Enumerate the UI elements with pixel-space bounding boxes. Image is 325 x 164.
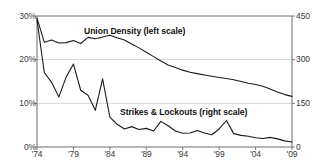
series-label-union-density: Union Density (left scale) xyxy=(84,26,185,36)
axis-ticks-group xyxy=(34,16,295,150)
series-paths-group xyxy=(37,18,292,142)
chart-container: Union Density (left scale) Strikes & Loc… xyxy=(0,0,325,164)
y-right-tick-label: 450 xyxy=(296,11,310,21)
gridlines-group xyxy=(37,60,292,104)
x-tick-label: '79 xyxy=(60,149,86,159)
x-tick-label: '89 xyxy=(133,149,159,159)
x-tick-label: '74 xyxy=(24,149,50,159)
series-line-strikes-lockouts xyxy=(37,20,292,142)
y-right-tick-label: 150 xyxy=(296,98,310,108)
x-tick-label: '94 xyxy=(170,149,196,159)
chart-plot-svg xyxy=(0,0,325,164)
series-label-strikes-lockouts: Strikes & Lockouts (right scale) xyxy=(120,107,247,117)
y-left-tick-label: 20% xyxy=(19,54,36,64)
x-tick-label: '99 xyxy=(206,149,232,159)
x-tick-label: '04 xyxy=(243,149,269,159)
x-tick-label: '09 xyxy=(279,149,305,159)
x-tick-label: '84 xyxy=(97,149,123,159)
y-right-tick-label: 300 xyxy=(296,54,310,64)
y-left-tick-label: 30% xyxy=(19,11,36,21)
y-left-tick-label: 10% xyxy=(19,98,36,108)
